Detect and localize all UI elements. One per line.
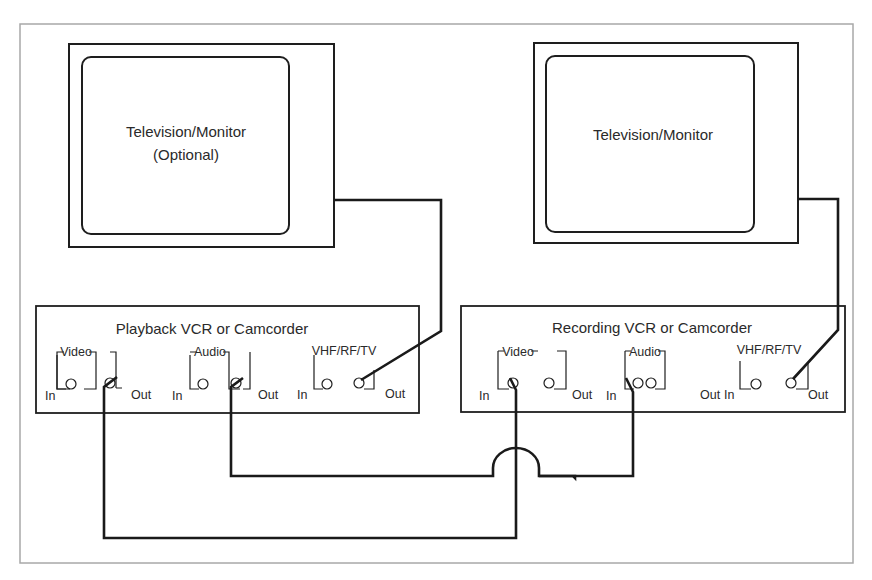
- playback-audio-label: Audio: [194, 345, 226, 359]
- recording-video-label: Video: [502, 345, 534, 359]
- tv-right-label: Television/Monitor: [593, 126, 713, 143]
- playback-audio-out-label: Out: [258, 388, 279, 402]
- recording-video-in-label: In: [479, 389, 489, 403]
- playback-vhf-in-label: In: [297, 388, 307, 402]
- connection-diagram: Television/Monitor (Optional) Television…: [0, 0, 872, 580]
- diagram-frame: [20, 24, 853, 563]
- playback-video-in-label: In: [45, 389, 55, 403]
- playback-video-out-label: Out: [131, 388, 152, 402]
- tv-left-optional-label: (Optional): [153, 146, 219, 163]
- recording-vhf-in-label: In: [724, 388, 734, 402]
- playback-audio-in-label: In: [172, 389, 182, 403]
- playback-vhf-out-label: Out: [385, 387, 406, 401]
- recording-audio-out-label: Out: [700, 388, 721, 402]
- playback-vhf-label: VHF/RF/TV: [312, 344, 377, 358]
- recording-video-out-label: Out: [572, 388, 593, 402]
- recording-vhf-label: VHF/RF/TV: [737, 343, 802, 357]
- recording-audio-label: Audio: [629, 345, 661, 359]
- recording-vcr-title: Recording VCR or Camcorder: [552, 319, 752, 336]
- playback-vcr-title: Playback VCR or Camcorder: [116, 320, 309, 337]
- recording-vhf-out-label: Out: [808, 388, 829, 402]
- recording-audio-in-label: In: [606, 389, 616, 403]
- tv-left-label: Television/Monitor: [126, 123, 246, 140]
- playback-video-label: Video: [60, 345, 92, 359]
